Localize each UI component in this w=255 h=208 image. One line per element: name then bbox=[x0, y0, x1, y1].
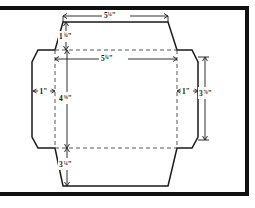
dimension-top-flap-width: 5¼" bbox=[63, 10, 168, 22]
diagram-page: 5¼" 1¾" 5¾" bbox=[0, 0, 255, 208]
label-right-flap-width: 1" bbox=[182, 87, 190, 96]
envelope-cut-outline bbox=[32, 22, 198, 186]
dimension-right-height: 3⅞" bbox=[198, 57, 225, 140]
envelope-template-diagram: 5¼" 1¾" 5¾" bbox=[0, 0, 255, 208]
label-left-flap-width: 1" bbox=[40, 87, 48, 96]
